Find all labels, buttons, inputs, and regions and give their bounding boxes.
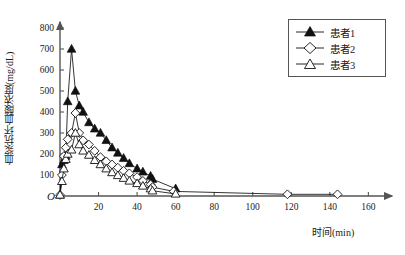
x-tick-label-120: 120 [284, 202, 299, 212]
data-point [67, 44, 76, 52]
y-tick-label-800: 800 [40, 23, 55, 33]
x-tick-label-40: 40 [132, 202, 142, 212]
legend-item-patient-1: 患者1 [289, 24, 385, 40]
data-point [75, 101, 84, 109]
data-point [333, 190, 342, 199]
y-tick-label-600: 600 [40, 65, 55, 75]
x-tick-label-140: 140 [323, 202, 338, 212]
legend-label-patient-2: 患者2 [325, 41, 355, 56]
legend-marker-filled-triangle-icon [295, 25, 325, 39]
y-tick-label-200: 200 [40, 149, 55, 159]
x-tick-label-60: 60 [171, 202, 181, 212]
data-point [85, 118, 94, 126]
origin-label: O [47, 190, 55, 202]
x-axis-title: 时间(min) [312, 224, 354, 239]
legend-marker-open-triangle-icon [295, 57, 325, 71]
legend-marker-open-diamond-icon [295, 41, 325, 55]
legend-label-patient-1: 患者1 [325, 25, 355, 40]
data-point [71, 109, 80, 118]
y-tick-label-100: 100 [40, 170, 55, 180]
y-tick-label-700: 700 [40, 44, 55, 54]
y-axis-title: 血浆抗坏血酸浓度(mg/dL) [2, 24, 18, 192]
data-point [283, 190, 292, 199]
y-tick-label-400: 400 [40, 107, 55, 117]
y-tick-label-300: 300 [40, 128, 55, 138]
legend-item-patient-2: 患者2 [289, 40, 385, 56]
x-tick-label-100: 100 [246, 202, 261, 212]
y-tick-label-500: 500 [40, 86, 55, 96]
x-tick-label-160: 160 [361, 202, 376, 212]
data-point [133, 164, 142, 172]
data-point [58, 177, 67, 185]
legend-label-patient-3: 患者3 [325, 57, 355, 72]
x-tick-label-20: 20 [94, 202, 104, 212]
chart-container: 1002003004005006007008002040608010012014… [0, 0, 405, 255]
series-2 [56, 109, 342, 200]
legend-item-patient-3: 患者3 [289, 56, 385, 72]
x-tick-label-80: 80 [209, 202, 219, 212]
chart-legend: 患者1 患者2 患者3 [288, 19, 386, 77]
data-point [71, 86, 80, 94]
data-point [63, 97, 72, 105]
